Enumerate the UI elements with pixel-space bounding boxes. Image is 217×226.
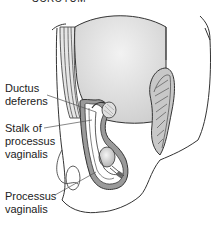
label-stalk-of-processus-vaginalis: Stalk of processus vaginalis <box>5 122 55 161</box>
label-ductus-deferens: Ductus deferens <box>5 82 48 108</box>
testis <box>99 147 115 167</box>
figure-title: SCROTUM <box>32 0 86 4</box>
label-processus-vaginalis: Processus vaginalis <box>5 190 56 216</box>
anatomical-figure: SCROTUM Ductus deferens Stalk of process… <box>0 0 217 226</box>
